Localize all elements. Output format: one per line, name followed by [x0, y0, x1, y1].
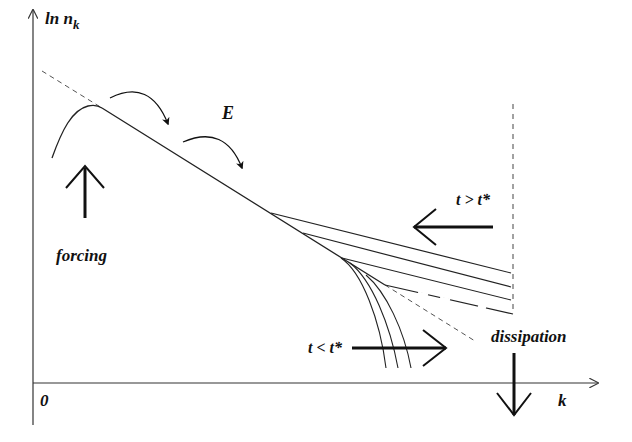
inertial-extrapolation-dashed-tail	[385, 285, 475, 341]
forcing-arrow-icon	[66, 166, 104, 218]
late-time-label: t > t*	[456, 191, 491, 208]
early-time-branches	[341, 258, 411, 368]
origin-label: 0	[40, 391, 49, 410]
forcing-label: forcing	[56, 246, 108, 265]
curved-arrow-icon	[183, 137, 242, 168]
early-time-label: t < t*	[308, 339, 343, 356]
y-axis-label: ln nk	[45, 9, 80, 32]
late-time-arrow-icon	[414, 209, 493, 245]
early-time-arrow-icon	[352, 330, 446, 366]
inertial-extrapolation-dashed	[42, 71, 102, 108]
dissipation-label: dissipation	[491, 327, 567, 346]
cascade-diagram: ln nk 0 k E forcing t >	[0, 0, 632, 442]
energy-flux-label: E	[221, 103, 234, 123]
dissipation-arrow-icon	[497, 353, 531, 415]
x-axis-label: k	[558, 391, 567, 410]
